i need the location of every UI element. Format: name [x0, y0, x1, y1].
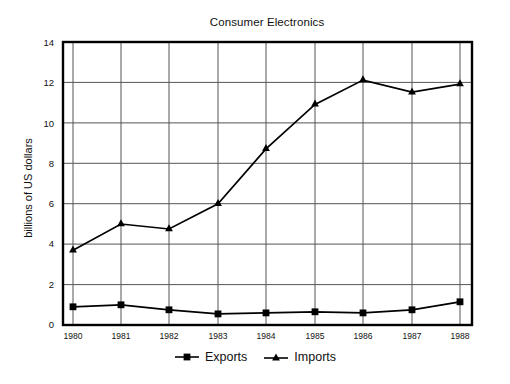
- x-tick-label-1982: 1982: [147, 331, 191, 341]
- x-tick-label-1987: 1987: [390, 331, 434, 341]
- chart-legend: Exports Imports: [0, 350, 510, 364]
- x-tick-label-1986: 1986: [341, 331, 385, 341]
- legend-item-exports: Exports: [174, 350, 247, 364]
- vertical-gridlines: [73, 42, 460, 325]
- legend-marker-square-icon: [174, 351, 200, 363]
- chart-container: Consumer Electronics billions of US doll…: [0, 0, 510, 384]
- plot-frame: [63, 42, 472, 325]
- legend-label-exports: Exports: [205, 350, 247, 364]
- x-tick-label-1984: 1984: [244, 331, 288, 341]
- x-tick-label-1988: 1988: [438, 331, 482, 341]
- legend-marker-triangle-icon: [263, 351, 289, 363]
- horizontal-gridlines: [63, 82, 472, 284]
- legend-item-imports: Imports: [263, 350, 336, 364]
- x-tick-label-1981: 1981: [99, 331, 143, 341]
- legend-label-imports: Imports: [294, 350, 336, 364]
- x-tick-label-1985: 1985: [293, 331, 337, 341]
- x-tick-label-1983: 1983: [196, 331, 240, 341]
- plot-area: [0, 0, 510, 384]
- x-tick-label-1980: 1980: [51, 331, 95, 341]
